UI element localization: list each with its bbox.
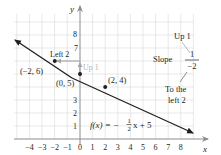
svg-text:2: 2	[103, 143, 107, 152]
slope-callout: Up 1 Slope 1 −2 To the left 2	[153, 31, 199, 105]
svg-text:1: 1	[127, 117, 130, 124]
svg-text:1: 1	[73, 122, 77, 131]
left-2-label: Left 2	[50, 50, 69, 59]
point-2-4	[103, 85, 107, 89]
svg-text:−2: −2	[187, 61, 196, 71]
svg-text:3: 3	[73, 96, 77, 105]
svg-text:7: 7	[166, 143, 170, 152]
svg-text:−2: −2	[51, 143, 60, 152]
svg-text:2: 2	[127, 125, 130, 132]
svg-text:5: 5	[141, 143, 145, 152]
svg-text:4: 4	[128, 143, 132, 152]
x-axis-label: x	[202, 144, 207, 154]
svg-text:−3: −3	[38, 143, 47, 152]
svg-text:−4: −4	[25, 143, 34, 152]
point-neg2-6	[53, 59, 57, 63]
svg-text:0: 0	[78, 143, 82, 152]
svg-text:1: 1	[190, 49, 194, 59]
point-label-neg2-6: (−2, 6)	[20, 66, 43, 76]
point-label-2-4: (2, 4)	[108, 75, 127, 85]
up-1-inline-label: Up 1	[83, 63, 99, 72]
svg-text:−1: −1	[63, 143, 72, 152]
svg-text:left 2: left 2	[168, 95, 186, 105]
x-tick-labels: −4 −3 −2 −1 0 1 2 3 4 5 6 7 8	[25, 143, 182, 152]
svg-text:6: 6	[154, 143, 158, 152]
svg-text:To the: To the	[165, 84, 187, 94]
svg-text:x + 5: x + 5	[133, 120, 152, 130]
svg-text:1: 1	[91, 143, 95, 152]
point-0-5	[78, 72, 82, 76]
svg-text:f(x) = −: f(x) = −	[90, 120, 119, 130]
y-axis-label: y	[69, 4, 74, 14]
svg-text:3: 3	[116, 143, 120, 152]
svg-text:2: 2	[73, 109, 77, 118]
svg-text:7: 7	[74, 44, 78, 53]
svg-text:Slope: Slope	[153, 54, 173, 64]
svg-text:8: 8	[179, 143, 183, 152]
svg-text:8: 8	[73, 30, 77, 39]
svg-text:Up 1: Up 1	[174, 31, 191, 41]
point-label-0-5: (0, 5)	[56, 78, 75, 88]
linear-function-graph: x y −4 −3 −2 −1 0 1 2 3 4 5 6 7 8 1 2 3 …	[0, 0, 221, 155]
